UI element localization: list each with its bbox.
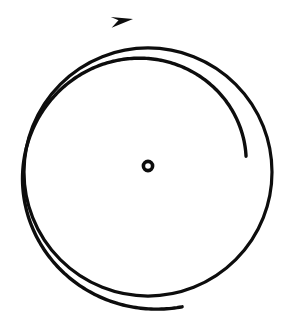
diagram-canvas [0,0,303,325]
rotation-diagram-figure [0,0,303,325]
